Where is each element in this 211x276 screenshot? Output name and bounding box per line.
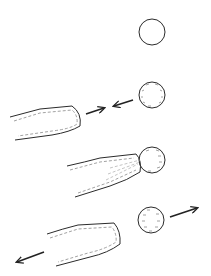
arrow-right-icon: [86, 108, 104, 114]
pipette: [67, 154, 141, 197]
stage-2: [10, 82, 165, 140]
arrow-left-icon: [17, 252, 44, 262]
pipette: [10, 106, 80, 140]
stage-1: [139, 19, 165, 45]
diagram-canvas: [0, 0, 211, 276]
arrow-right-icon: [170, 208, 197, 217]
stage-3: [67, 147, 165, 197]
cell-with-granules: [139, 147, 165, 173]
stage-4: [17, 207, 197, 266]
cell-with-granules: [138, 207, 164, 233]
arrow-left-icon: [114, 100, 133, 106]
diagram-svg: [0, 0, 211, 276]
pipette: [47, 223, 120, 266]
cell-empty: [139, 19, 165, 45]
cell-with-granules: [139, 82, 165, 108]
